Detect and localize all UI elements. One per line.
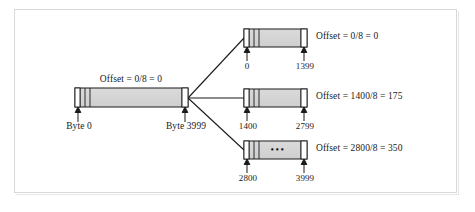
main-bar-ticks	[75, 107, 188, 122]
block-bottom-start-label: 2800	[239, 173, 257, 184]
block-bottom-ellipsis-icon: •••	[270, 144, 285, 155]
main-buffer-end-label: Byte 3999	[166, 121, 206, 132]
block-top-offset-label: Offset = 0/8 = 0	[316, 31, 378, 42]
connector-to-top	[188, 38, 244, 98]
block-bottom-end-label: 3999	[296, 173, 314, 184]
block-bottom-offset-label: Offset = 2800/8 = 350	[316, 143, 403, 154]
main-buffer-bar	[75, 88, 188, 107]
block-top-bar	[244, 29, 307, 47]
block-top-end-label: 1399	[296, 61, 314, 72]
main-buffer-offset-label: Offset = 0/8 = 0	[100, 74, 162, 85]
block-bottom-ticks	[244, 159, 307, 173]
main-buffer-start-label: Byte 0	[66, 121, 92, 132]
block-middle-offset-label: Offset = 1400/8 = 175	[316, 91, 403, 102]
figure-canvas: Offset = 0/8 = 0 Byte 0 Byte 3999 Offset…	[0, 0, 475, 212]
diagram-graphics	[0, 0, 475, 212]
block-middle-end-label: 2799	[296, 121, 314, 132]
connector-lines	[188, 38, 244, 150]
block-top-ticks	[244, 47, 307, 61]
block-middle-ticks	[244, 107, 307, 121]
block-middle-start-label: 1400	[239, 121, 257, 132]
block-middle-bar	[244, 89, 307, 107]
block-top-start-label: 0	[245, 61, 250, 72]
